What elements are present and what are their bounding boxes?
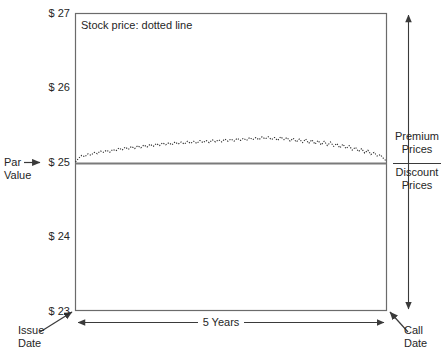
discount-line1: Discount [392,166,442,179]
y-tick-24: $ 24 [30,231,70,242]
y-tick-27: $ 27 [30,8,70,19]
stock-price-chart: $ 27 $ 26 $ 25 $ 24 $ 23 Stock price: do… [0,0,442,350]
plot-legend-title: Stock price: dotted line [81,19,192,32]
issue-date-line2: Date [18,337,44,350]
discount-line2: Prices [392,179,442,192]
five-years-label: 5 Years [0,316,442,329]
y-tick-25: $ 25 [30,157,70,168]
discount-prices-label: Discount Prices [392,166,442,192]
premium-line2: Prices [392,143,442,156]
plot-frame [76,14,387,311]
call-date-line2: Date [404,337,427,350]
premium-line1: Premium [392,130,442,143]
five-years-text: 5 Years [198,316,245,328]
par-value-label-line2: Value [4,169,31,182]
y-tick-26: $ 26 [30,82,70,93]
chart-graphics [0,0,442,350]
par-value-label: Par Value [4,156,31,182]
stock-price-line [76,137,387,162]
premium-prices-label: Premium Prices [392,130,442,156]
par-value-label-line1: Par [4,156,31,169]
